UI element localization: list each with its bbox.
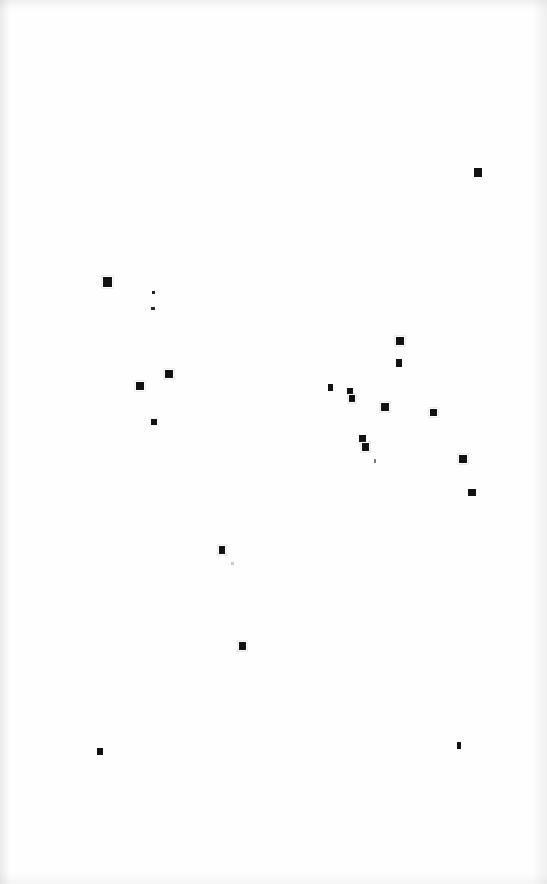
ink-speck xyxy=(328,384,333,391)
ink-speck xyxy=(349,395,355,402)
ink-speck xyxy=(468,489,476,496)
scanned-page xyxy=(0,0,547,884)
ink-speck xyxy=(374,459,376,463)
ink-speck xyxy=(396,337,404,345)
ink-speck xyxy=(103,277,112,287)
ink-speck xyxy=(165,370,173,378)
ink-speck xyxy=(231,562,234,565)
ink-speck xyxy=(239,642,246,650)
page-edge-shading-right xyxy=(533,0,547,884)
page-edge-shading-bottom xyxy=(0,872,547,884)
ink-speck xyxy=(151,419,157,425)
ink-speck xyxy=(151,307,155,310)
ink-speck xyxy=(457,742,461,749)
ink-speck xyxy=(459,455,467,463)
ink-speck xyxy=(362,443,369,451)
ink-speck xyxy=(97,748,103,755)
ink-speck xyxy=(430,409,437,416)
ink-speck xyxy=(474,168,482,177)
ink-speck xyxy=(152,291,155,294)
ink-speck xyxy=(396,359,402,367)
page-edge-shading-top xyxy=(0,0,547,10)
page-edge-shading-left xyxy=(0,0,10,884)
ink-speck xyxy=(381,403,389,411)
ink-speck xyxy=(219,546,225,554)
ink-speck xyxy=(136,382,144,390)
